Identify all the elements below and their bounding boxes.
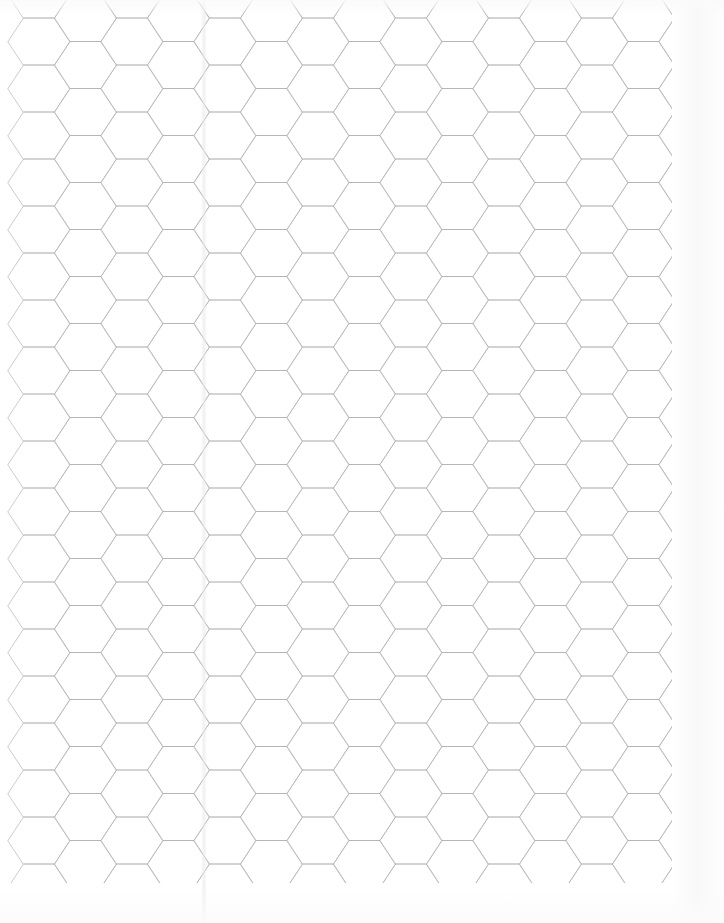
hex-cell	[334, 512, 396, 559]
hex-cell	[566, 770, 628, 817]
hex-cell	[613, 324, 675, 371]
hex-cell	[427, 324, 489, 371]
hex-cell	[427, 700, 489, 747]
hex-cell	[473, 817, 535, 864]
hex-cell	[520, 653, 582, 700]
hex-cell	[380, 817, 442, 864]
hex-cell	[148, 653, 210, 700]
hex-cell	[659, 535, 721, 582]
hex-cell	[241, 89, 303, 136]
hex-cell	[380, 629, 442, 676]
hex-cell	[148, 42, 210, 89]
hex-cell	[659, 488, 721, 535]
hex-cell	[55, 606, 117, 653]
hex-cell	[55, 700, 117, 747]
hex-cell	[520, 418, 582, 465]
hex-cell	[8, 394, 70, 441]
hex-cell	[659, 18, 721, 65]
hex-cell	[55, 371, 117, 418]
hex-cell	[566, 253, 628, 300]
hex-cell	[473, 441, 535, 488]
hex-cell	[148, 512, 210, 559]
hex-cell	[659, 676, 721, 723]
hex-cell	[380, 300, 442, 347]
hex-cell	[659, 629, 721, 676]
hex-cell	[473, 394, 535, 441]
hex-cell	[55, 559, 117, 606]
hex-cell	[194, 206, 256, 253]
hex-cell	[566, 347, 628, 394]
hex-cell	[334, 653, 396, 700]
hex-cell	[101, 300, 163, 347]
hex-cell	[566, 676, 628, 723]
hex-cell	[55, 747, 117, 794]
hex-cell	[287, 629, 349, 676]
hex-cell	[148, 559, 210, 606]
hex-cell	[8, 18, 70, 65]
hex-cell	[241, 183, 303, 230]
hex-cell	[55, 277, 117, 324]
hex-cell	[241, 700, 303, 747]
hex-cell	[473, 488, 535, 535]
hex-cell	[566, 18, 628, 65]
hex-cell	[520, 747, 582, 794]
hex-cell	[427, 465, 489, 512]
hex-cell	[287, 300, 349, 347]
hex-cell	[287, 676, 349, 723]
hex-cell	[287, 582, 349, 629]
hex-cell	[101, 817, 163, 864]
hex-cell	[520, 230, 582, 277]
hex-cell	[613, 606, 675, 653]
hex-cell	[520, 89, 582, 136]
hex-cell	[380, 770, 442, 817]
hex-cell	[194, 817, 256, 864]
hex-cell	[8, 159, 70, 206]
hex-cell	[334, 183, 396, 230]
hex-cell	[148, 465, 210, 512]
hex-cell	[520, 841, 582, 888]
hex-cell	[380, 206, 442, 253]
hex-cell	[241, 418, 303, 465]
hex-cell	[473, 159, 535, 206]
hex-cell	[473, 347, 535, 394]
hex-cell	[8, 676, 70, 723]
hex-cell	[659, 112, 721, 159]
hex-cell	[334, 42, 396, 89]
hex-cell	[566, 817, 628, 864]
hex-cell	[427, 277, 489, 324]
hex-cell	[613, 747, 675, 794]
hex-cell	[613, 183, 675, 230]
hex-cell	[520, 42, 582, 89]
hex-cell	[380, 488, 442, 535]
hex-cell	[8, 300, 70, 347]
hex-cell	[613, 559, 675, 606]
hex-cell	[473, 582, 535, 629]
hex-cell	[520, 606, 582, 653]
hex-cell	[566, 488, 628, 535]
hex-cell	[101, 394, 163, 441]
hex-cell	[473, 864, 535, 911]
hex-cell	[101, 676, 163, 723]
hex-cell	[148, 606, 210, 653]
hex-cell	[241, 653, 303, 700]
hex-cell	[473, 770, 535, 817]
hex-cell	[55, 230, 117, 277]
hex-cell	[334, 324, 396, 371]
hex-cell	[194, 112, 256, 159]
hex-cell	[287, 723, 349, 770]
hex-cell	[473, 112, 535, 159]
hex-cell	[473, 629, 535, 676]
hex-cell	[148, 794, 210, 841]
hex-cell	[241, 559, 303, 606]
hex-cell	[148, 841, 210, 888]
hex-cell	[8, 441, 70, 488]
hex-cell	[613, 841, 675, 888]
hex-cell	[8, 347, 70, 394]
hex-cell	[334, 747, 396, 794]
hex-graph-paper-page	[0, 0, 724, 923]
hex-cell	[427, 230, 489, 277]
hex-cell	[613, 418, 675, 465]
hex-cell	[659, 253, 721, 300]
hex-cell	[148, 136, 210, 183]
hex-cell	[8, 112, 70, 159]
